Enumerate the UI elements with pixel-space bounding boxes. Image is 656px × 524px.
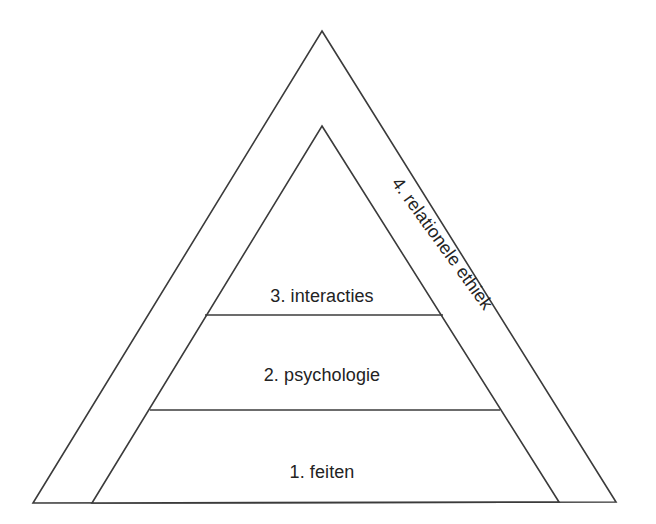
tier-label-psychologie: 2. psychologie — [264, 365, 380, 385]
pyramid-canvas: 3. interacties 2. psychologie 1. feiten … — [0, 0, 656, 524]
tier-label-interacties: 3. interacties — [270, 286, 373, 306]
pyramid-diagram: 3. interacties 2. psychologie 1. feiten … — [0, 0, 656, 524]
tier-label-feiten: 1. feiten — [290, 462, 355, 482]
